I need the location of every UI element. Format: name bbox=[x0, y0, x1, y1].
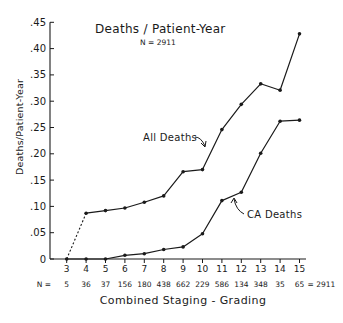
all-deaths-point bbox=[162, 194, 166, 198]
x-tick-label: 11 bbox=[216, 264, 227, 274]
all-deaths-point bbox=[220, 128, 224, 132]
all-deaths-point bbox=[181, 170, 185, 174]
ca-deaths-point bbox=[278, 119, 282, 123]
all-deaths-dotted-segment bbox=[67, 213, 86, 259]
y-tick-label: .40 bbox=[30, 43, 46, 54]
x-tick-label: 13 bbox=[255, 264, 266, 274]
ca-deaths-point bbox=[65, 257, 69, 261]
x-tick-label: 5 bbox=[103, 264, 109, 274]
chart-title: Deaths / Patient-Year bbox=[95, 22, 226, 36]
ca-deaths-point bbox=[298, 118, 302, 122]
all-deaths-point bbox=[143, 200, 147, 204]
n-value: 37 bbox=[101, 280, 111, 289]
y-axis-label: Deaths/Patient-Year bbox=[14, 79, 25, 175]
chart-subtitle: N = 2911 bbox=[140, 38, 176, 47]
y-tick-label: .25 bbox=[30, 122, 46, 133]
ca-deaths-point bbox=[143, 252, 147, 256]
y-tick-label: .15 bbox=[30, 175, 46, 186]
all-deaths-point bbox=[240, 103, 244, 107]
n-total: = 2911 bbox=[308, 280, 336, 289]
n-value: 438 bbox=[157, 280, 172, 289]
x-tick-label: 10 bbox=[197, 264, 209, 274]
all-deaths-point bbox=[123, 206, 127, 210]
ca-deaths-point bbox=[259, 151, 263, 155]
n-value: 586 bbox=[215, 280, 230, 289]
x-axis-ticks: 3456789101112131415 bbox=[64, 259, 305, 274]
x-tick-label: 6 bbox=[122, 264, 128, 274]
y-tick-label: .05 bbox=[30, 227, 46, 238]
ca-deaths-point bbox=[104, 257, 108, 261]
n-row-label: N = bbox=[37, 280, 51, 289]
y-tick-label: .10 bbox=[30, 201, 46, 212]
ca-deaths-point bbox=[84, 257, 88, 261]
y-tick-label: .20 bbox=[30, 148, 46, 159]
y-tick-label: .45 bbox=[30, 17, 46, 28]
y-tick-label: 0 bbox=[40, 254, 46, 265]
chart: 0.05.10.15.20.25.30.35.40.45 34567891011… bbox=[0, 0, 343, 323]
all-deaths-line bbox=[86, 34, 299, 213]
x-tick-label: 8 bbox=[161, 264, 167, 274]
all-deaths-point bbox=[259, 82, 263, 86]
ca-deaths-point bbox=[123, 254, 127, 258]
x-tick-label: 15 bbox=[294, 264, 305, 274]
x-tick-label: 9 bbox=[180, 264, 186, 274]
x-tick-label: 12 bbox=[236, 264, 247, 274]
series-lines bbox=[65, 32, 301, 261]
n-value: 65 bbox=[295, 280, 305, 289]
y-tick-label: .30 bbox=[30, 96, 46, 107]
all-deaths-point bbox=[298, 32, 302, 36]
n-value: 5 bbox=[64, 280, 69, 289]
ca-deaths-point bbox=[201, 232, 205, 236]
all-deaths-point bbox=[201, 168, 205, 172]
x-axis-label: Combined Staging - Grading bbox=[100, 294, 267, 307]
n-value: 662 bbox=[176, 280, 191, 289]
n-value: 348 bbox=[254, 280, 269, 289]
x-tick-label: 7 bbox=[141, 264, 147, 274]
all-deaths-point bbox=[278, 88, 282, 92]
n-value: 156 bbox=[118, 280, 133, 289]
y-tick-label: .35 bbox=[30, 69, 46, 80]
ca-deaths-point bbox=[181, 245, 185, 249]
ca-deaths-point bbox=[162, 248, 166, 252]
n-value: 229 bbox=[195, 280, 210, 289]
x-tick-label: 14 bbox=[274, 264, 286, 274]
n-value: 35 bbox=[275, 280, 285, 289]
ca-deaths-point bbox=[220, 199, 224, 203]
x-tick-label: 3 bbox=[64, 264, 70, 274]
ca-deaths-point bbox=[240, 190, 244, 194]
x-tick-label: 4 bbox=[83, 264, 89, 274]
ca-deaths-label: CA Deaths bbox=[247, 209, 302, 220]
all-deaths-point bbox=[104, 209, 108, 213]
n-value: 36 bbox=[81, 280, 91, 289]
n-value: 180 bbox=[137, 280, 152, 289]
n-count-row: N =536371561804386622295861343483565= 29… bbox=[37, 280, 336, 289]
n-value: 134 bbox=[234, 280, 249, 289]
all-deaths-point bbox=[84, 211, 88, 215]
all-deaths-label: All Deaths bbox=[143, 132, 197, 143]
